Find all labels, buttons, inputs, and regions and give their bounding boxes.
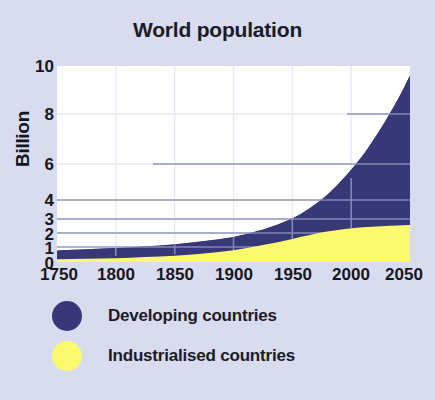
chart-title: World population [0, 18, 435, 42]
plot-area [57, 66, 410, 262]
x-axis-tick: 1850 [143, 266, 207, 283]
chart-legend: Developing countries Industrialised coun… [52, 296, 412, 376]
y-axis-tick: 8 [10, 106, 54, 123]
chart-figure: World population Billion 10 8 6 4 3 2 1 … [0, 0, 435, 400]
y-axis-tick: 10 [10, 58, 54, 75]
x-axis-tick: 1750 [27, 266, 91, 283]
legend-swatch-circle-icon [52, 341, 82, 371]
legend-label: Industrialised countries [108, 346, 295, 366]
stacked-area-plot [57, 66, 410, 262]
legend-item-industrialised: Industrialised countries [52, 336, 412, 376]
y-axis-tick-group: 10 8 6 4 3 2 1 0 [4, 0, 54, 400]
x-axis-tick: 1900 [202, 266, 266, 283]
legend-swatch-circle-icon [52, 301, 82, 331]
legend-item-developing: Developing countries [52, 296, 412, 336]
x-axis-tick: 2050 [372, 266, 435, 283]
y-axis-tick: 4 [10, 192, 54, 209]
legend-label: Developing countries [108, 306, 277, 326]
y-axis-tick: 6 [10, 156, 54, 173]
x-axis-tick: 1950 [261, 266, 325, 283]
x-axis-tick: 1800 [84, 266, 148, 283]
